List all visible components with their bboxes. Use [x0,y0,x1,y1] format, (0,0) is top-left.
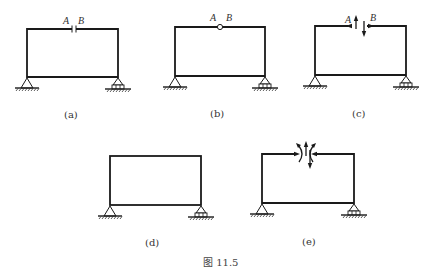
figure-caption: 图 11.5 [203,257,238,268]
roller-support-icon [341,204,367,218]
roller-support-icon [393,76,419,90]
force-moment-arrows-right-icon [308,143,317,169]
figure-11-5: A B (a) A B (b) A B (c [0,0,433,273]
panel-b: A B (b) [163,12,278,119]
pin-support-icon [98,206,122,219]
frame-b [175,27,265,76]
panel-label-c: (c) [352,108,366,119]
panel-e: (e) [250,141,367,247]
point-a-label: A [344,14,352,25]
frame-c [315,26,406,75]
panel-label-b: (b) [210,108,224,119]
point-b-label: B [370,12,376,23]
pin-support-icon [303,76,327,89]
point-a-label: A [62,15,70,26]
panel-a: A B (a) [15,15,131,120]
pin-support-icon [163,77,187,90]
point-b-label: B [226,12,232,23]
panel-label-a: (a) [64,109,78,120]
frame-a [27,29,118,77]
pin-support-icon [15,78,39,91]
roller-support-icon [252,77,278,91]
pin-support-icon [250,204,274,217]
point-b-label: B [78,15,84,26]
frame-d [110,156,201,205]
point-a-label: A [209,12,217,23]
panel-c: A B (c) [303,12,419,119]
panel-label-e: (e) [302,236,316,247]
roller-support-icon [188,206,214,220]
force-arrows-b-icon [362,21,374,37]
hinge-icon [217,24,222,29]
force-moment-arrows-left-icon [294,141,308,162]
roller-support-icon [105,78,131,92]
frame-e [262,154,354,203]
panel-label-d: (d) [145,237,159,248]
panel-d: (d) [98,156,214,248]
